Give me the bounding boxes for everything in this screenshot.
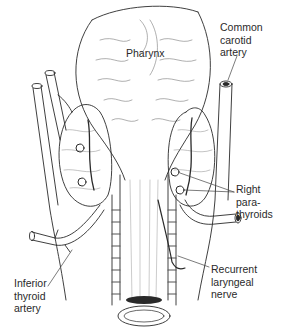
label-line: thyroid bbox=[14, 290, 47, 303]
label-line: Recurrent bbox=[211, 263, 257, 276]
label-line: Pharynx bbox=[126, 47, 165, 60]
right-thyroid-lobe bbox=[168, 108, 215, 206]
label-line: Inferior bbox=[14, 277, 47, 290]
label-pharynx: Pharynx bbox=[126, 47, 165, 60]
label-line: nerve bbox=[211, 288, 257, 301]
left-carotid-artery bbox=[32, 71, 72, 301]
pharynx-shape bbox=[76, 6, 211, 180]
label-line: artery bbox=[14, 302, 47, 315]
label-common-carotid-artery: Common carotid artery bbox=[220, 21, 263, 59]
label-line: thyroids bbox=[236, 208, 273, 221]
trachea bbox=[112, 175, 176, 326]
label-line: para- bbox=[236, 196, 273, 209]
label-line: Common bbox=[220, 21, 263, 34]
label-line: Right bbox=[236, 183, 273, 196]
label-right-parathyroids: Right para- thyroids bbox=[236, 183, 273, 221]
leader-lines bbox=[48, 56, 237, 286]
label-inferior-thyroid-artery: Inferior thyroid artery bbox=[14, 277, 47, 315]
label-line: carotid bbox=[220, 34, 263, 47]
label-recurrent-laryngeal-nerve: Recurrent laryngeal nerve bbox=[211, 263, 257, 301]
label-line: laryngeal bbox=[211, 276, 257, 289]
label-line: artery bbox=[220, 46, 263, 59]
left-thyroid-lobe bbox=[59, 105, 112, 207]
